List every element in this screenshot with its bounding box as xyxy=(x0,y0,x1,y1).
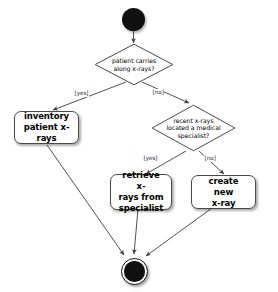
action-inventory-line-2: patient x-rays xyxy=(18,122,75,144)
edge-create-to-final xyxy=(146,208,212,256)
action-create-new-xray: create new x-ray xyxy=(191,175,256,209)
guard-specialist-yes: [yes] xyxy=(143,155,158,162)
action-create-line-2: x-ray xyxy=(195,198,252,209)
action-inventory-line-1: inventory xyxy=(18,111,75,122)
edge-retrieve-to-final xyxy=(134,209,138,254)
guard-specialist-no: [no] xyxy=(204,155,216,162)
guard-carries-no: [no] xyxy=(152,89,164,96)
action-retrieve-xrays-from-specialist: retrieve x- rays from specialist xyxy=(110,174,172,210)
final-node xyxy=(121,258,148,285)
action-inventory-patient-xrays: inventory patient x-rays xyxy=(14,111,79,144)
decision-recent-xrays-specialist: recent x-rays located a medical speciali… xyxy=(151,104,236,152)
action-retrieve-line-1: retrieve x- xyxy=(114,170,168,192)
start-node xyxy=(122,8,145,31)
action-create-line-1: create new xyxy=(195,176,252,198)
activity-diagram-canvas: patient carries along x-rays? recent x-r… xyxy=(0,0,278,292)
action-retrieve-line-2: rays from xyxy=(114,192,168,203)
edge-decision-carries-yes xyxy=(53,82,126,110)
action-retrieve-line-3: specialist xyxy=(114,203,168,214)
guard-carries-yes: [yes] xyxy=(74,90,89,97)
final-node-inner xyxy=(124,261,144,281)
decision-patient-carries: patient carries along x-rays? xyxy=(94,43,174,86)
